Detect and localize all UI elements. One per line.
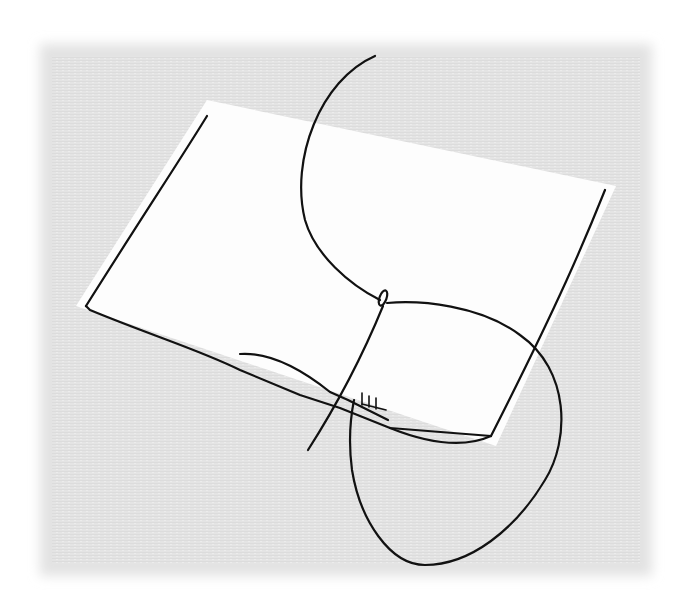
needle-thread-illustration [0,0,673,603]
